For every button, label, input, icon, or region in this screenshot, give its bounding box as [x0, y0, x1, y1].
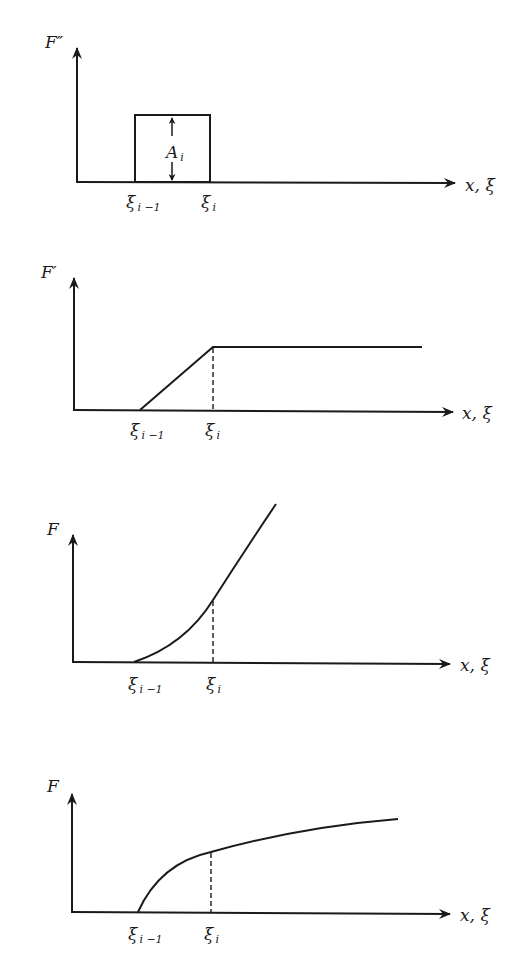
convex-curve: [134, 504, 276, 662]
x-axis-label: x, ξ: [460, 655, 491, 675]
x-axis: [73, 410, 453, 412]
tick-label-xi-i-minus-1: ξi −1: [128, 924, 163, 946]
x-axis-label: x, ξ: [465, 175, 496, 195]
x-axis-label: x, ξ: [460, 905, 491, 925]
tick-label-xi-i-minus-1: ξi −1: [130, 420, 165, 442]
y-axis-label: F″: [44, 32, 64, 52]
tick-label-xi-i: ξi: [205, 420, 220, 442]
panel-first-derivative: F′ x, ξ ξi −1 ξi: [40, 262, 493, 442]
panel-function-concave: F x, ξ ξi −1 ξi: [46, 776, 491, 946]
tick-label-xi-i-minus-1: ξi −1: [128, 674, 163, 696]
concave-curve: [138, 819, 398, 912]
y-axis-label: F: [46, 776, 60, 796]
tick-label-xi-i: ξi: [206, 674, 221, 696]
diagram-canvas: F″ x, ξ Ai ξi −1 ξi F′ x, ξ ξi −1 ξi F: [0, 0, 521, 974]
x-axis-label: x, ξ: [462, 403, 493, 423]
ramp-curve: [140, 347, 422, 410]
x-axis: [71, 912, 450, 914]
y-axis-label: F′: [40, 262, 57, 282]
x-axis: [76, 182, 455, 183]
tick-label-xi-i-minus-1: ξi −1: [126, 192, 161, 214]
panel-function-convex: F x, ξ ξi −1 ξi: [46, 504, 491, 696]
x-axis: [72, 662, 450, 664]
y-axis-label: F: [46, 519, 60, 539]
tick-label-xi-i: ξi: [204, 924, 219, 946]
annotation-A-i: Ai: [164, 142, 184, 164]
tick-label-xi-i: ξi: [201, 192, 216, 214]
panel-second-derivative: F″ x, ξ Ai ξi −1 ξi: [44, 32, 496, 214]
